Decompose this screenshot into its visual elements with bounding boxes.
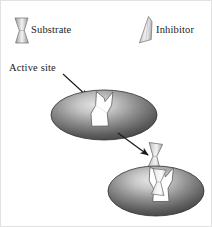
free-enzyme-shape bbox=[51, 90, 157, 140]
enzyme-inhibition-figure: Substrate Inhibitor Active site bbox=[0, 0, 212, 227]
legend-label-inhibitor: Inhibitor bbox=[156, 25, 194, 36]
free-inhibitor-molecule bbox=[148, 143, 163, 170]
active-site-label: Active site bbox=[9, 63, 56, 74]
legend-inhibitor-icon bbox=[140, 17, 153, 43]
inhibited-enzyme-shape bbox=[108, 166, 204, 216]
legend-label-substrate: Substrate bbox=[31, 25, 71, 36]
legend-substrate-icon bbox=[15, 18, 28, 43]
